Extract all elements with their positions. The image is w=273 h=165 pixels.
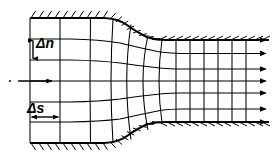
streamline bbox=[30, 60, 266, 69]
equipotential-line bbox=[127, 25, 131, 140]
delta-s-label: Δs bbox=[27, 101, 44, 115]
delta-n-label: Δn bbox=[36, 36, 54, 50]
flow-net-figure: Δn Δs bbox=[0, 0, 273, 165]
streamlines-group bbox=[30, 39, 266, 122]
bottom-wall-hatching bbox=[31, 122, 270, 150]
streamline bbox=[30, 93, 266, 102]
flow-net-drawing bbox=[0, 0, 273, 165]
streamline bbox=[30, 39, 266, 53]
top-wall-hatching bbox=[31, 11, 270, 40]
bottom-wall-boundary bbox=[30, 122, 269, 143]
equipotential-line bbox=[90, 18, 91, 143]
streamline bbox=[30, 109, 266, 122]
top-wall-group bbox=[30, 11, 270, 40]
